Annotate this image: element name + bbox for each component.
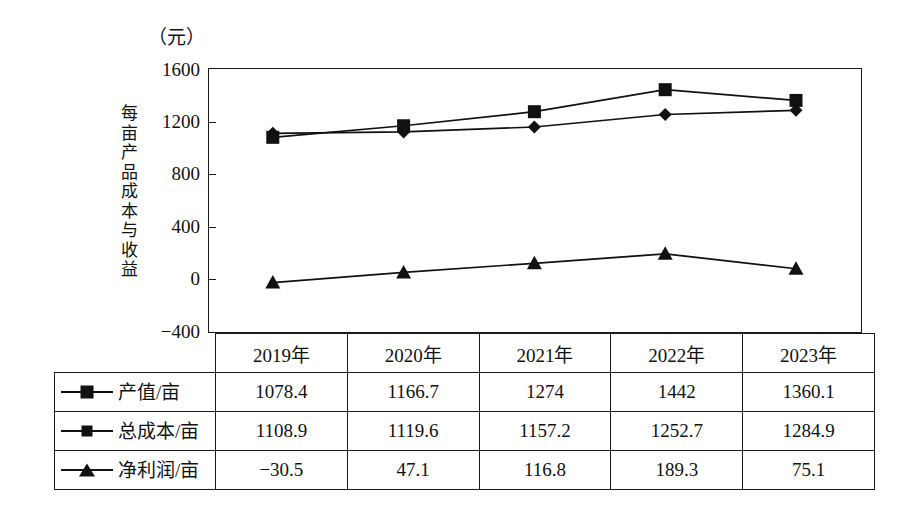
table-row: 总成本/亩1108.91119.61157.21252.71284.9 bbox=[55, 412, 875, 451]
y-tick-label: 1200 bbox=[136, 112, 200, 131]
diamond-marker-icon bbox=[61, 422, 113, 440]
chart-figure: （元） 每 亩 产 品 成 本 与 收 益 160012008004000−40… bbox=[0, 0, 910, 517]
table-data-cell: 1119.6 bbox=[347, 412, 479, 451]
table-data-cell: 1360.1 bbox=[743, 373, 875, 412]
y-axis-tick-mark bbox=[208, 279, 216, 280]
table-header-cell: 2019年 bbox=[216, 334, 348, 373]
data-point-marker bbox=[659, 108, 672, 121]
data-point-marker bbox=[528, 121, 541, 134]
plot-area bbox=[208, 68, 862, 333]
table-data-cell: 1166.7 bbox=[347, 373, 479, 412]
table-data-cell: 1442 bbox=[611, 373, 743, 412]
table-corner-cell bbox=[55, 334, 216, 373]
table-data-cell: −30.5 bbox=[216, 451, 348, 490]
legend-label: 总成本/亩 bbox=[118, 422, 199, 441]
table-header-cell: 2022年 bbox=[611, 334, 743, 373]
y-tick-label: 800 bbox=[136, 164, 200, 183]
table-data-cell: 1274 bbox=[479, 373, 611, 412]
table-header-cell: 2021年 bbox=[479, 334, 611, 373]
data-point-marker bbox=[658, 246, 673, 260]
legend-cell: 净利润/亩 bbox=[55, 451, 216, 490]
y-axis-tick-mark bbox=[208, 122, 216, 123]
y-tick-label: 1600 bbox=[136, 60, 200, 79]
legend-label: 产值/亩 bbox=[118, 383, 180, 402]
data-point-marker bbox=[659, 83, 672, 96]
legend-cell: 产值/亩 bbox=[55, 373, 216, 412]
table-data-cell: 1157.2 bbox=[479, 412, 611, 451]
series-lines bbox=[209, 69, 860, 331]
table-data-cell: 189.3 bbox=[611, 451, 743, 490]
table-row: 产值/亩1078.41166.7127414421360.1 bbox=[55, 373, 875, 412]
table-data-cell: 1108.9 bbox=[216, 412, 348, 451]
table-header-row: 2019年2020年2021年2022年2023年 bbox=[55, 334, 875, 373]
table-header-cell: 2023年 bbox=[743, 334, 875, 373]
table-data-cell: 116.8 bbox=[479, 451, 611, 490]
table-data-cell: 1078.4 bbox=[216, 373, 348, 412]
data-table: 2019年2020年2021年2022年2023年产值/亩1078.41166.… bbox=[54, 333, 875, 490]
series-1 bbox=[266, 83, 802, 144]
legend-label: 净利润/亩 bbox=[118, 461, 199, 480]
y-axis-tick-mark bbox=[208, 174, 216, 175]
table-data-cell: 1284.9 bbox=[743, 412, 875, 451]
table-data-cell: 75.1 bbox=[743, 451, 875, 490]
square-marker-icon bbox=[61, 383, 113, 401]
table-data-cell: 47.1 bbox=[347, 451, 479, 490]
legend-square-icon bbox=[81, 386, 94, 399]
legend-cell: 总成本/亩 bbox=[55, 412, 216, 451]
y-tick-label: 0 bbox=[136, 269, 200, 288]
series-3 bbox=[265, 246, 803, 288]
legend-diamond-icon bbox=[82, 426, 93, 437]
y-tick-label: 400 bbox=[136, 217, 200, 236]
table-data-cell: 1252.7 bbox=[611, 412, 743, 451]
table-header-cell: 2020年 bbox=[347, 334, 479, 373]
y-axis-tick-mark bbox=[208, 227, 216, 228]
legend-triangle-icon bbox=[79, 464, 95, 477]
triangle-marker-icon bbox=[61, 461, 113, 479]
table-row: 净利润/亩−30.547.1116.8189.375.1 bbox=[55, 451, 875, 490]
data-point-marker bbox=[528, 105, 541, 118]
